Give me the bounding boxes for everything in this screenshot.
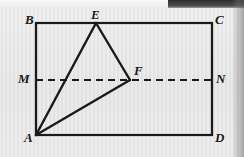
vertex-label-d: D: [215, 131, 224, 144]
vertex-label-b: B: [25, 13, 34, 26]
vertex-label-a: A: [24, 131, 33, 144]
geometry-figure: BECMFNAD: [0, 0, 244, 157]
vertex-label-c: C: [215, 13, 224, 26]
diagram-svg: [0, 0, 244, 157]
vertex-label-n: N: [216, 72, 225, 85]
vertex-label-e: E: [91, 8, 100, 21]
vertex-label-m: M: [18, 72, 30, 85]
vertex-label-f: F: [134, 64, 143, 77]
segment-ef: [96, 23, 130, 80]
